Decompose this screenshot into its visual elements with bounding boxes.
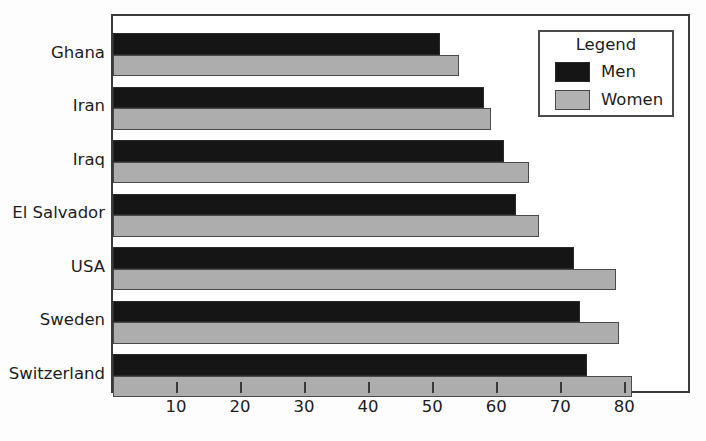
x-tick-label-80: 80 <box>602 399 646 416</box>
bar-men-sweden <box>113 301 580 323</box>
category-label-el-salvador: El Salvador <box>0 205 105 222</box>
legend: Legend Men Women <box>538 30 674 117</box>
bar-women-iran <box>113 108 491 130</box>
bar-women-el-salvador <box>113 215 539 237</box>
category-axis: GhanaIranIraqEl SalvadorUSASwedenSwitzer… <box>0 14 105 393</box>
x-tick-label-30: 30 <box>282 399 326 416</box>
category-label-iraq: Iraq <box>0 152 105 169</box>
bar-women-switzerland <box>113 376 632 398</box>
x-tick-label-10: 10 <box>154 399 198 416</box>
legend-title: Legend <box>540 37 672 54</box>
bar-men-usa <box>113 247 574 269</box>
bar-men-el-salvador <box>113 194 516 216</box>
legend-entry-women: Women <box>555 89 663 111</box>
category-label-iran: Iran <box>0 98 105 115</box>
women-swatch-icon <box>555 90 590 110</box>
x-tick-label-70: 70 <box>538 399 582 416</box>
bar-men-ghana <box>113 33 440 55</box>
x-tick-label-50: 50 <box>410 399 454 416</box>
legend-label-women: Women <box>601 92 663 109</box>
bar-women-iraq <box>113 162 529 184</box>
legend-label-men: Men <box>601 64 636 81</box>
men-swatch-icon <box>555 62 590 82</box>
bar-chart: GhanaIranIraqEl SalvadorUSASwedenSwitzer… <box>0 0 706 441</box>
bar-men-switzerland <box>113 354 587 376</box>
bar-men-iran <box>113 87 484 109</box>
bar-women-usa <box>113 269 616 291</box>
bar-women-sweden <box>113 322 619 344</box>
category-label-sweden: Sweden <box>0 312 105 329</box>
x-tick-label-40: 40 <box>346 399 390 416</box>
category-label-usa: USA <box>0 259 105 276</box>
category-label-ghana: Ghana <box>0 45 105 62</box>
legend-entry-men: Men <box>555 61 636 83</box>
category-label-switzerland: Switzerland <box>0 366 105 383</box>
x-tick-label-20: 20 <box>218 399 262 416</box>
x-tick-label-60: 60 <box>474 399 518 416</box>
bar-women-ghana <box>113 55 459 77</box>
bar-men-iraq <box>113 140 504 162</box>
